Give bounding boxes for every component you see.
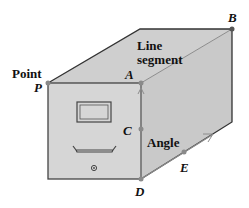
point-b-label: B [228,11,237,24]
point-e-label: E [180,161,189,174]
point-c-dot [139,127,144,132]
point-b-dot [230,27,235,32]
point-d-label: D [135,185,144,198]
point-e-dot [182,150,187,155]
point-c-label: C [123,124,132,137]
point-p-label: P [34,81,42,94]
file-cabinet-diagram [0,0,249,208]
lock-keyhole [93,167,95,169]
term-line-segment-label-1: Line [137,39,162,52]
term-angle-label: Angle [147,136,180,149]
point-a-label: A [125,68,134,81]
term-line-segment-label-2: segment [137,53,183,66]
point-a-dot [139,81,144,86]
point-d-dot [139,177,144,182]
term-point-label: Point [12,67,42,80]
point-p-dot [46,81,51,86]
